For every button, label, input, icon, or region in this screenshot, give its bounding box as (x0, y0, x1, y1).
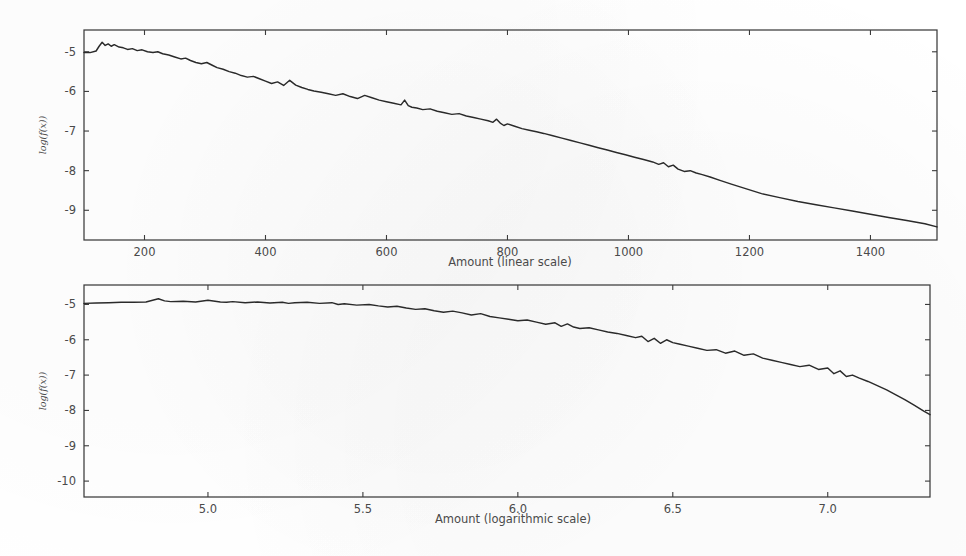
plot-frame-logarithmic (84, 285, 930, 497)
y-tick-label: -5 (65, 297, 76, 311)
x-tick-label: 7.0 (819, 502, 837, 516)
y-tick-label: -10 (57, 474, 76, 488)
y-tick-label: -8 (65, 403, 76, 417)
x-tick-label: 5.0 (199, 502, 217, 516)
x-tick-label: 200 (134, 245, 156, 259)
y-tick-label: -5 (65, 45, 76, 59)
y-tick-label: -7 (65, 368, 76, 382)
chart-linear-svg: 200400600800100012001400-5-6-7-8-9 Amoun… (0, 0, 966, 278)
x-tick-label: 600 (376, 245, 398, 259)
x-axis-title-logarithmic: Amount (logarithmic scale) (435, 512, 591, 526)
x-tick-label: 5.5 (354, 502, 372, 516)
data-series-line-logarithmic (84, 299, 930, 415)
x-tick-label: 400 (255, 245, 277, 259)
x-tick-label: 6.5 (664, 502, 682, 516)
y-tick-label: -6 (65, 333, 76, 347)
y-axis-title-logarithmic: log(f(x)) (37, 371, 48, 410)
x-axis-title-linear: Amount (linear scale) (448, 255, 572, 269)
y-tick-label: -7 (65, 124, 76, 138)
x-tick-label: 1400 (856, 245, 885, 259)
x-tick-label: 1000 (614, 245, 643, 259)
chart-logarithmic-svg: 5.05.56.06.57.0-5-6-7-8-9-10 Amount (log… (0, 278, 966, 556)
y-axis-title-linear: log(f(x)) (37, 115, 48, 154)
axis-ticks-logarithmic (84, 285, 930, 497)
y-tick-label: -8 (65, 164, 76, 178)
axis-tick-labels-linear: 200400600800100012001400-5-6-7-8-9 (65, 45, 886, 259)
y-tick-label: -9 (65, 439, 76, 453)
axis-ticks-linear (84, 30, 937, 240)
chart-panel-logarithmic: 5.05.56.06.57.0-5-6-7-8-9-10 Amount (log… (0, 278, 966, 556)
y-tick-label: -6 (65, 84, 76, 98)
plot-frame-linear (84, 30, 937, 240)
data-series-line-linear (84, 42, 937, 227)
x-tick-label: 1200 (735, 245, 764, 259)
chart-panel-linear: 200400600800100012001400-5-6-7-8-9 Amoun… (0, 0, 966, 278)
axis-tick-labels-logarithmic: 5.05.56.06.57.0-5-6-7-8-9-10 (57, 297, 837, 516)
y-tick-label: -9 (65, 203, 76, 217)
figure-container: 200400600800100012001400-5-6-7-8-9 Amoun… (0, 0, 966, 556)
